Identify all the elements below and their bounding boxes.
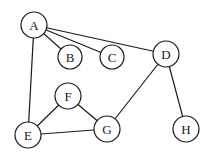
node-d: D [153, 41, 179, 67]
node-label: A [29, 18, 39, 33]
node-label: D [161, 47, 170, 62]
graph-diagram: ABCDFEGH [0, 0, 216, 158]
node-g: G [94, 116, 120, 142]
node-label: E [24, 128, 32, 143]
node-c: C [100, 45, 124, 69]
node-label: H [181, 122, 190, 137]
node-a: A [21, 12, 47, 38]
edge-a-d [34, 25, 166, 54]
node-label: C [108, 50, 117, 65]
node-f: F [55, 83, 81, 109]
node-b: B [58, 45, 82, 69]
node-label: G [102, 122, 111, 137]
node-e: E [15, 122, 41, 148]
node-label: B [66, 50, 75, 65]
node-label: F [64, 89, 71, 104]
nodes-layer: ABCDFEGH [15, 12, 199, 148]
edge-a-e [28, 25, 34, 135]
node-h: H [173, 116, 199, 142]
